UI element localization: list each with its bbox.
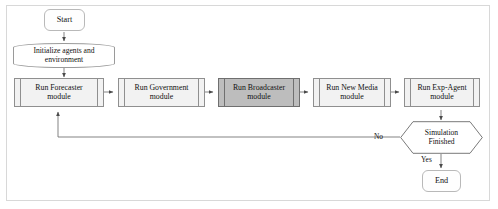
node-run-broadcaster[interactable]: Run Broadcaster module	[218, 78, 300, 107]
node-run-exp-agent[interactable]: Run Exp-Agent module	[404, 78, 480, 107]
node-simulation-finished-label-line2: Finished	[425, 138, 458, 147]
node-run-new-media-label-group: Run New Media module	[319, 84, 385, 101]
node-end[interactable]: End	[422, 170, 461, 192]
node-start-label: Start	[57, 15, 72, 24]
subroutine-bar-left	[20, 79, 21, 106]
node-run-government-label-group: Run Government module	[128, 84, 196, 101]
node-run-new-media-label-line2: module	[326, 93, 378, 102]
subroutine-bar-right	[293, 79, 294, 106]
node-run-forecaster-label-line2: module	[35, 93, 82, 102]
node-run-forecaster-label-group: Run Forecaster module	[28, 84, 89, 101]
node-simulation-finished-label-group: Simulation Finished	[425, 129, 458, 146]
node-initialize-label-group: Initialize agents and environment	[23, 47, 105, 64]
subroutine-bar-right	[198, 79, 199, 106]
node-run-forecaster[interactable]: Run Forecaster module	[14, 78, 104, 107]
node-run-exp-agent-label-line2: module	[417, 93, 466, 102]
node-run-broadcaster-label-line2: module	[233, 93, 285, 102]
node-run-exp-agent-label-group: Run Exp-Agent module	[410, 84, 473, 101]
subroutine-bar-left	[124, 79, 125, 106]
node-run-broadcaster-label-group: Run Broadcaster module	[226, 84, 292, 101]
subroutine-bar-right	[97, 79, 98, 106]
node-simulation-finished[interactable]: Simulation Finished	[400, 121, 483, 154]
node-run-government-label-line2: module	[135, 93, 189, 102]
node-run-new-media[interactable]: Run New Media module	[313, 78, 391, 107]
node-initialize-label-line2: environment	[23, 56, 105, 65]
node-start[interactable]: Start	[44, 9, 85, 31]
node-initialize[interactable]: Initialize agents and environment	[13, 43, 115, 68]
edge-label-yes: Yes	[421, 155, 432, 164]
node-end-label: End	[435, 176, 448, 185]
edge-label-no: No	[374, 132, 383, 141]
node-run-government[interactable]: Run Government module	[118, 78, 205, 107]
subroutine-bar-left	[224, 79, 225, 106]
flowchart-canvas: Start Initialize agents and environment …	[0, 0, 498, 209]
